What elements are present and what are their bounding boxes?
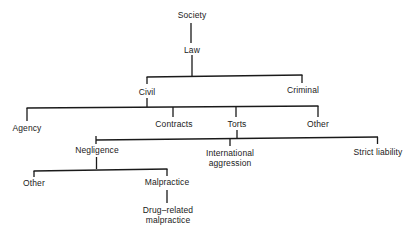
- node-society: Society: [178, 10, 207, 20]
- bar-law-children: [147, 75, 303, 77]
- node-agency: Agency: [13, 123, 42, 133]
- law-classification-tree: Society Law Civil Criminal Agency Contra…: [0, 0, 415, 239]
- node-drug-related-line2: malpractice: [143, 215, 193, 225]
- tree-connectors: [0, 0, 415, 239]
- bar-negligence-children: [34, 169, 168, 171]
- node-negligence: Negligence: [75, 145, 119, 155]
- node-criminal: Criminal: [287, 85, 319, 95]
- node-law: Law: [184, 45, 200, 55]
- node-civil: Civil: [139, 87, 156, 97]
- node-drug-related-malpractice: Drug–related malpractice: [143, 205, 193, 225]
- node-malpractice: Malpractice: [145, 177, 190, 187]
- node-negligence-other: Other: [23, 178, 45, 188]
- node-civil-other: Other: [307, 119, 329, 129]
- node-international-aggression: International aggression: [206, 148, 254, 168]
- node-international-aggression-line1: International: [206, 148, 254, 158]
- node-drug-related-line1: Drug–related: [143, 205, 193, 215]
- node-torts: Torts: [228, 119, 247, 129]
- node-international-aggression-line2: aggression: [206, 158, 254, 168]
- node-strict-liability: Strict liability: [354, 147, 403, 157]
- node-contracts: Contracts: [155, 119, 192, 129]
